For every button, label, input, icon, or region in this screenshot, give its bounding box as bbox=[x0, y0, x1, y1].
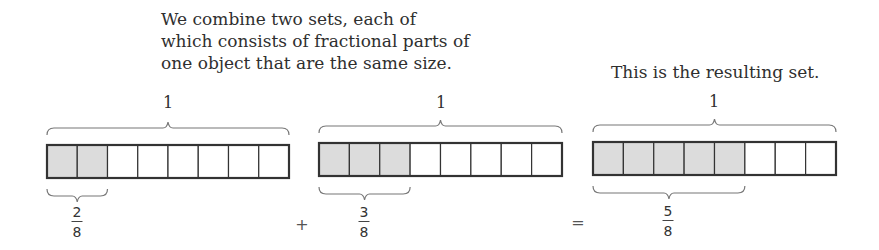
shaded-part bbox=[684, 142, 714, 175]
fraction-bar-2 bbox=[319, 120, 562, 200]
unshaded-part bbox=[745, 142, 775, 175]
part-brace bbox=[319, 187, 410, 200]
whole-brace bbox=[319, 120, 562, 133]
plus-sign: + bbox=[295, 215, 308, 234]
numerator: 3 bbox=[360, 204, 369, 220]
fraction-2-8: 2 8 bbox=[72, 204, 83, 240]
shaded-part bbox=[349, 143, 379, 176]
unshaded-part bbox=[441, 143, 471, 176]
numerator: 2 bbox=[73, 204, 82, 220]
fraction-bar bbox=[359, 221, 370, 222]
shaded-part bbox=[319, 143, 349, 176]
part-brace bbox=[593, 186, 745, 199]
equals-sign: = bbox=[571, 213, 584, 232]
unshaded-part bbox=[229, 145, 259, 178]
whole-brace bbox=[593, 119, 836, 132]
unshaded-part bbox=[168, 145, 198, 178]
fraction-3-8: 3 8 bbox=[359, 204, 370, 240]
shaded-part bbox=[47, 145, 77, 178]
denominator: 8 bbox=[360, 224, 369, 240]
shaded-part bbox=[380, 143, 410, 176]
unshaded-part bbox=[775, 142, 805, 175]
fraction-bar-1 bbox=[47, 122, 289, 202]
unshaded-part bbox=[501, 143, 531, 176]
shaded-part bbox=[593, 142, 623, 175]
fraction-bar bbox=[663, 220, 674, 221]
unshaded-part bbox=[108, 145, 138, 178]
fraction-bar bbox=[72, 221, 83, 222]
denominator: 8 bbox=[664, 223, 673, 239]
fraction-5-8: 5 8 bbox=[663, 203, 674, 239]
shaded-part bbox=[654, 142, 684, 175]
unshaded-part bbox=[138, 145, 168, 178]
whole-brace bbox=[47, 122, 289, 135]
shaded-part bbox=[77, 145, 107, 178]
fraction-bars-diagram bbox=[0, 0, 879, 250]
fraction-bar-3 bbox=[593, 119, 836, 199]
part-brace bbox=[47, 189, 108, 202]
unshaded-part bbox=[259, 145, 289, 178]
denominator: 8 bbox=[73, 224, 82, 240]
shaded-part bbox=[623, 142, 653, 175]
unshaded-part bbox=[806, 142, 836, 175]
numerator: 5 bbox=[664, 203, 673, 219]
unshaded-part bbox=[198, 145, 228, 178]
unshaded-part bbox=[471, 143, 501, 176]
unshaded-part bbox=[532, 143, 562, 176]
unshaded-part bbox=[410, 143, 440, 176]
shaded-part bbox=[715, 142, 745, 175]
